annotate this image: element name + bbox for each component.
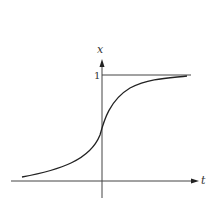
t-axis-arrow-icon	[191, 179, 199, 184]
y-axis-label: x	[97, 43, 104, 56]
x-axis-arrow-icon	[100, 59, 105, 67]
x-axis-label: t	[201, 174, 206, 187]
y-tick-one-label: 1	[94, 70, 100, 81]
sigmoid-curve	[22, 76, 187, 177]
diagram-canvas: x t 1	[0, 0, 215, 207]
